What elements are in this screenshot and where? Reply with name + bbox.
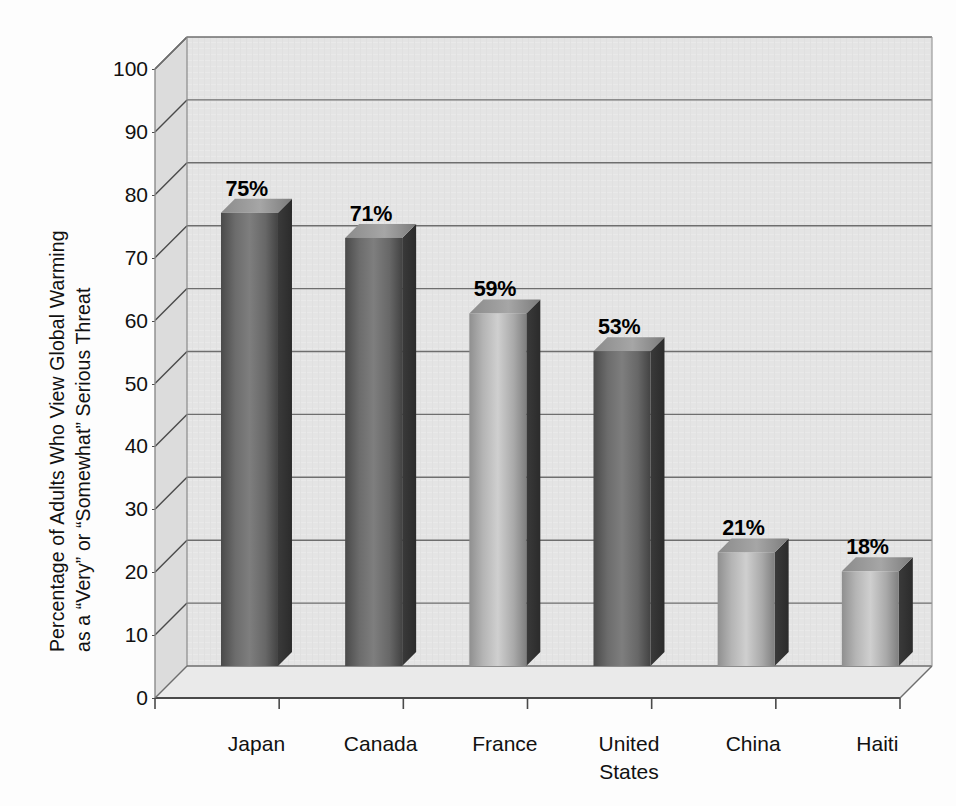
bar-side-face	[526, 299, 540, 666]
bar-side-face	[650, 337, 664, 666]
bar[interactable]	[593, 337, 664, 666]
bar-front-face	[221, 213, 278, 666]
bar[interactable]	[842, 557, 913, 666]
bar-front-face	[345, 238, 402, 666]
bar-side-face	[402, 224, 416, 666]
bar-side-face	[278, 199, 292, 666]
bar[interactable]	[718, 538, 789, 666]
plot-svg	[0, 0, 956, 806]
bar[interactable]	[469, 299, 540, 666]
x-tick-label: Haiti	[802, 730, 952, 758]
plot-area	[0, 0, 956, 806]
bar-value-label: 75%	[225, 177, 267, 202]
bar-front-face	[842, 571, 899, 666]
bar-value-label: 71%	[350, 202, 392, 227]
bar-side-face	[775, 538, 789, 666]
bar[interactable]	[345, 224, 416, 666]
bar-front-face	[469, 313, 526, 666]
x-axis-tickmarks	[155, 698, 900, 709]
bar-value-label: 21%	[722, 516, 764, 541]
bar-value-label: 59%	[474, 277, 516, 302]
bar-front-face	[718, 552, 775, 666]
x-axis-labels: JapanCanadaFranceUnitedStatesChinaHaiti	[0, 712, 956, 802]
bar-chart: Percentage of Adults Who View Global War…	[0, 0, 956, 806]
bar-side-face	[899, 557, 913, 666]
bar[interactable]	[221, 199, 292, 666]
x-tick-label-line: Haiti	[802, 730, 952, 758]
floor	[155, 666, 932, 698]
bar-front-face	[593, 351, 650, 666]
bar-value-label: 18%	[846, 535, 888, 560]
x-tick-label-line: States	[554, 758, 704, 786]
bar-value-label: 53%	[598, 315, 640, 340]
